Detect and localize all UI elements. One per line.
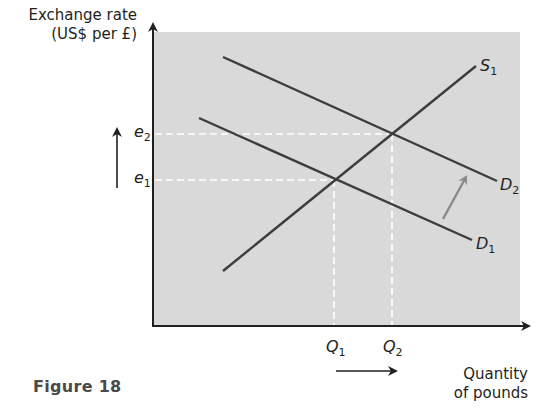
x-axis-label: Quantity of pounds: [448, 365, 528, 403]
supply-demand-diagram: S1 D2 D1 e2 e1 Q1 Q2: [0, 0, 550, 414]
tick-q2: Q2: [383, 337, 403, 359]
figure-caption: Figure 18: [33, 377, 122, 396]
tick-q1: Q1: [326, 337, 346, 359]
x-axis-label-line1: Quantity: [448, 365, 528, 384]
tick-e2: e2: [134, 122, 151, 144]
x-axis-label-line2: of pounds: [448, 384, 528, 403]
tick-e1: e1: [134, 168, 151, 190]
